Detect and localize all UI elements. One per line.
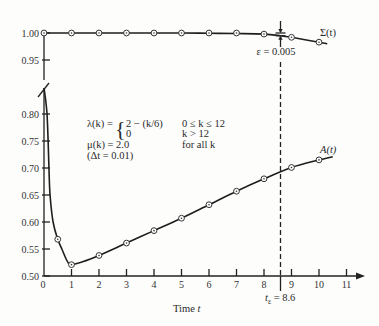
y-tick-label: 0.55	[22, 244, 40, 255]
data-point-marker-dot	[98, 255, 100, 257]
data-point-marker-dot	[71, 32, 73, 34]
data-point-marker-dot	[291, 37, 293, 39]
data-point-marker-dot	[71, 264, 73, 266]
series-line	[44, 88, 333, 265]
data-point-marker-dot	[43, 32, 45, 34]
data-point-marker-dot	[181, 217, 183, 219]
data-point-marker-dot	[126, 242, 128, 244]
y-tick-label: 0.70	[22, 163, 40, 174]
epsilon-label: ε = 0.005	[256, 46, 295, 57]
brace-glyph: {	[115, 116, 126, 141]
data-point-marker-dot	[208, 204, 210, 206]
data-point-marker-dot	[318, 159, 320, 161]
x-tick-label: 4	[152, 279, 157, 290]
delta-t: (Δt = 0.01)	[87, 150, 134, 162]
x-tick-label: 8	[262, 279, 267, 290]
y-tick-label: 0.80	[22, 109, 40, 120]
sigma-series-label: Σ(t)	[320, 27, 337, 39]
y-tick-label: 0.50	[22, 271, 40, 282]
x-tick-label: 9	[289, 279, 294, 290]
x-tick-label: 11	[342, 279, 352, 290]
x-tick-label: 5	[179, 279, 184, 290]
x-axis-arrow-icon	[356, 273, 365, 280]
data-point-marker-dot	[263, 33, 265, 35]
lambda-condition-2: k > 12	[182, 128, 209, 139]
y-tick-label: 0.65	[22, 190, 40, 201]
y-tick-label: 1.00	[22, 28, 40, 39]
axes: 012345678910111.000.950.800.750.700.650.…	[22, 28, 366, 291]
data-point-marker-dot	[153, 230, 155, 232]
t-epsilon-value: = 8.6	[271, 292, 295, 303]
data-point-marker-dot	[236, 190, 238, 192]
lambda-lhs: λ(k) =	[87, 118, 113, 130]
x-tick-label: 3	[124, 279, 129, 290]
series-line	[44, 33, 327, 44]
epsilon-annotation	[276, 21, 286, 291]
parameter-annotation: λ(k) = { 2 − (k/6) 0 0 ≤ k ≤ 12 k > 12 μ…	[87, 116, 225, 162]
data-point-marker-dot	[181, 32, 183, 34]
series-sigma	[41, 30, 327, 45]
data-point-marker-dot	[153, 32, 155, 34]
x-axis-title-var: t	[197, 303, 201, 314]
x-tick-label: 2	[97, 279, 102, 290]
data-point-marker-dot	[291, 167, 293, 169]
y-tick-label: 0.75	[22, 136, 40, 147]
y-tick-label: 0.60	[22, 217, 40, 228]
x-tick-label: 10	[314, 279, 324, 290]
series-a	[44, 88, 333, 267]
x-axis-title-word: Time	[173, 303, 197, 314]
data-point-marker-dot	[236, 32, 238, 34]
lambda-case-1: 2 − (k/6)	[126, 118, 163, 130]
x-axis-title: Time t	[173, 303, 201, 314]
x-tick-label: 1	[69, 279, 74, 290]
chart-figure: 012345678910111.000.950.800.750.700.650.…	[0, 0, 379, 326]
data-point-marker-dot	[208, 32, 210, 34]
data-point-marker-dot	[57, 238, 59, 240]
line-chart: 012345678910111.000.950.800.750.700.650.…	[0, 0, 379, 326]
x-tick-label: 6	[207, 279, 212, 290]
x-tick-label: 0	[41, 279, 46, 290]
data-point-marker-dot	[263, 178, 265, 180]
t-epsilon-label: tε = 8.6	[265, 292, 295, 306]
mu-condition: for all k	[182, 139, 216, 150]
x-tick-label: 7	[234, 279, 239, 290]
lambda-case-2: 0	[126, 128, 131, 139]
data-point-marker-dot	[318, 41, 320, 43]
data-point-marker-dot	[126, 32, 128, 34]
a-series-label: A(t)	[319, 144, 337, 156]
y-tick-label: 0.95	[22, 55, 40, 66]
data-point-marker-dot	[98, 32, 100, 34]
